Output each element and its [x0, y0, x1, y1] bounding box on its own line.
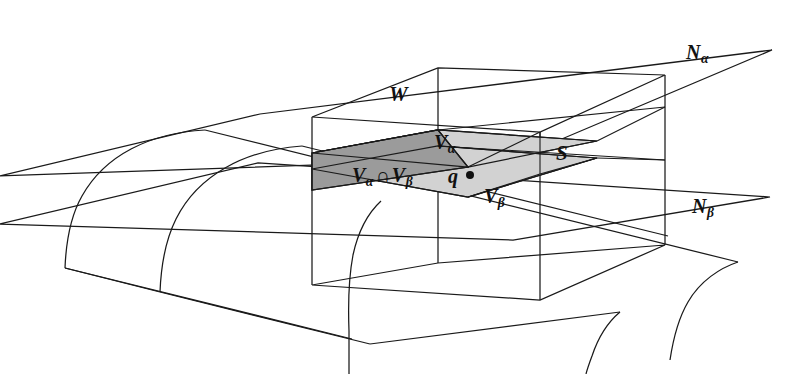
surface-s-back-curve: [65, 130, 205, 268]
label-patch-intersection: Vα∩Vβ: [352, 165, 413, 188]
label-patch-v-alpha: Vα: [434, 132, 455, 155]
surface-s-lower-edge-2: [160, 292, 370, 344]
label-v-beta-subscript: β: [498, 195, 505, 210]
label-intersection-sub-second: β: [406, 174, 413, 189]
label-v-alpha-subscript: α: [448, 141, 456, 156]
surface-s-right-curve-upper: [670, 262, 738, 360]
label-v-alpha-base: V: [434, 131, 447, 153]
box-w-bottom-face: [312, 245, 665, 300]
label-box-w: W: [389, 84, 408, 105]
label-neighborhood-n-beta: Nβ: [692, 196, 714, 219]
intersection-operator-icon: ∩: [373, 164, 391, 186]
label-n-alpha-subscript: α: [701, 51, 709, 66]
label-surface-s: S: [556, 143, 568, 164]
label-intersection-v-second: V: [392, 164, 405, 186]
label-intersection-v-first: V: [352, 164, 365, 186]
label-patch-v-beta: Vβ: [484, 186, 505, 209]
label-point-q: q: [448, 166, 458, 186]
surface-s-right-curve-lower: [586, 312, 620, 374]
plane-n-alpha-through-box-front: [597, 107, 665, 141]
label-n-alpha-base: N: [686, 41, 700, 63]
label-n-beta-subscript: β: [707, 205, 714, 220]
label-v-beta-base: V: [484, 185, 497, 207]
figure-canvas: W S Nα Nβ Vα Vβ Vα∩Vβ q: [0, 0, 797, 374]
surface-s-bottom-right-edge: [370, 312, 620, 344]
label-n-beta-base: N: [692, 195, 706, 217]
point-q-dot-marker: [466, 171, 474, 179]
box-w-top-face: [312, 68, 665, 132]
label-neighborhood-n-alpha: Nα: [686, 42, 708, 65]
